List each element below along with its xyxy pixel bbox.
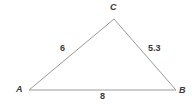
triangle-outline [29,19,176,90]
side-length-label-ac: 6 [60,44,65,53]
side-length-label-ab: 8 [100,92,105,101]
triangle-shape [0,0,192,106]
vertex-label-a: A [16,85,23,94]
side-length-label-cb: 5.3 [148,44,161,53]
triangle-diagram-canvas: A B C 6 5.3 8 [0,0,192,106]
vertex-label-c: C [110,3,117,12]
vertex-label-b: B [179,86,186,95]
